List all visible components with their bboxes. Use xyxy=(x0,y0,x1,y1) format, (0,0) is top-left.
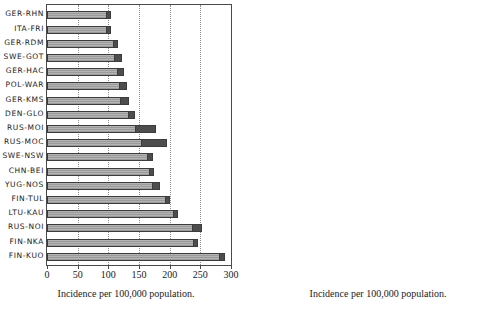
bar-end-cap xyxy=(192,225,201,231)
bar-end-cap xyxy=(152,183,159,189)
bar xyxy=(47,210,178,218)
category-label: FIN-NKA xyxy=(9,238,44,246)
bar xyxy=(47,54,122,62)
axis-tick-label: 150 xyxy=(132,269,147,280)
category-label: POL-WAR xyxy=(6,81,44,89)
bar xyxy=(47,253,225,261)
bar-end-cap xyxy=(106,27,109,33)
category-label: GER-HAC xyxy=(6,67,44,75)
category-label: FIN-TUL xyxy=(11,195,44,203)
bar xyxy=(47,82,127,90)
bar-end-cap xyxy=(135,126,156,132)
plot-area-left xyxy=(46,4,232,266)
bar-end-cap xyxy=(219,254,224,260)
bar xyxy=(47,239,198,247)
x-axis-title-left: Incidence per 100,000 population. xyxy=(0,288,252,299)
axis-tick-label: 50 xyxy=(73,269,83,280)
axis-tick-label: 250 xyxy=(193,269,208,280)
bar-end-cap xyxy=(106,12,109,18)
category-label: LTU-KAU xyxy=(8,209,44,217)
bar-end-cap xyxy=(193,240,197,246)
category-label: RUS-NOI xyxy=(8,223,44,231)
chart-panel-left: GER-RHNITA-FRIGER-RDMSWE-GOTGER-HACPOL-W… xyxy=(0,0,252,318)
bar xyxy=(47,182,160,190)
bar xyxy=(47,11,111,19)
bar-end-cap xyxy=(114,55,121,61)
category-label: GER-KMS xyxy=(5,96,44,104)
category-label: ITA-FRI xyxy=(14,25,44,33)
bar xyxy=(47,125,156,133)
bar xyxy=(47,97,129,105)
bar-end-cap xyxy=(120,98,128,104)
category-label: SWE-GOT xyxy=(4,53,44,61)
category-label: YUG-NOS xyxy=(5,181,44,189)
bar xyxy=(47,40,118,48)
bar xyxy=(47,111,135,119)
bar-end-cap xyxy=(141,140,165,146)
category-label: RUS-MOC xyxy=(4,138,44,146)
x-axis-left: 050100150200250300 xyxy=(46,266,232,284)
bar xyxy=(47,68,124,76)
axis-tick-label: 300 xyxy=(224,269,239,280)
axis-tick-label: 200 xyxy=(162,269,177,280)
category-label: RUS-MOI xyxy=(7,124,44,132)
axis-tick-label: 0 xyxy=(45,269,50,280)
bar xyxy=(47,196,170,204)
bar-end-cap xyxy=(117,69,124,75)
category-label: SWE-NSW xyxy=(2,152,44,160)
bar-end-cap xyxy=(165,197,169,203)
axis-tick-label: 100 xyxy=(101,269,116,280)
category-label: GER-RDM xyxy=(4,39,44,47)
bar xyxy=(47,224,202,232)
category-label: DEN-GLO xyxy=(5,110,44,118)
bar-end-cap xyxy=(119,83,127,89)
bar-chart-figure: GER-RHNITA-FRIGER-RDMSWE-GOTGER-HACPOL-W… xyxy=(0,0,504,318)
bar xyxy=(47,153,153,161)
category-label: FIN-KUO xyxy=(9,252,44,260)
bar-end-cap xyxy=(149,169,154,175)
category-label: GER-RHN xyxy=(5,10,44,18)
bar-end-cap xyxy=(147,154,152,160)
bar xyxy=(47,26,111,34)
chart-panel-right: GER-RHNGER-RDMITA-FRIPOL-WARSWE-GOTGER-H… xyxy=(252,0,504,318)
bar-end-cap xyxy=(173,211,177,217)
bar-end-cap xyxy=(128,112,133,118)
category-label: CHN-BEI xyxy=(9,167,44,175)
category-label-column-left: GER-RHNITA-FRIGER-RDMSWE-GOTGER-HACPOL-W… xyxy=(0,4,46,266)
x-axis-title-right: Incidence per 100,000 population. xyxy=(252,288,504,299)
bar xyxy=(47,139,167,147)
bar xyxy=(47,168,154,176)
bar-end-cap xyxy=(113,41,116,47)
